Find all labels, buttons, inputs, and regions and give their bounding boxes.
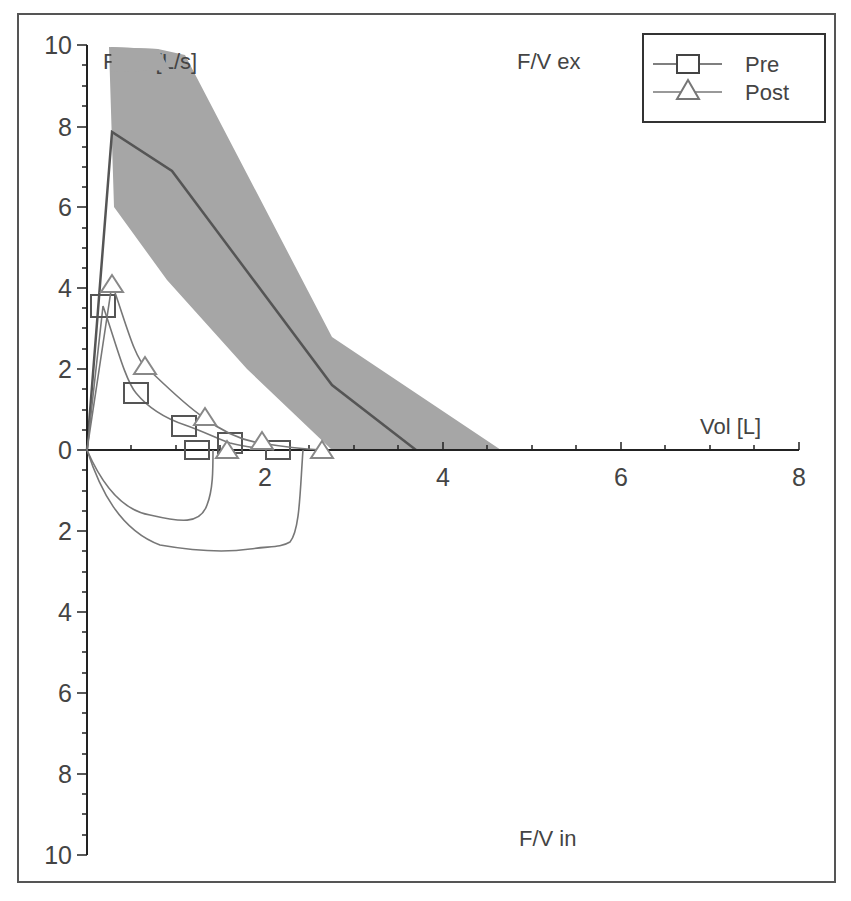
svg-text:10: 10 <box>44 841 72 869</box>
svg-text:4: 4 <box>58 274 72 302</box>
svg-text:0: 0 <box>58 436 72 464</box>
svg-text:8: 8 <box>58 760 72 788</box>
legend: Pre Post <box>643 34 825 122</box>
flow-volume-chart: 10 8 6 4 2 0 2 4 6 8 10 2 4 6 8 <box>0 0 851 901</box>
svg-text:8: 8 <box>58 113 72 141</box>
svg-text:Post: Post <box>745 80 789 105</box>
svg-text:2: 2 <box>58 517 72 545</box>
svg-text:4: 4 <box>436 463 450 491</box>
svg-text:6: 6 <box>58 679 72 707</box>
x-axis-label: Vol [L] <box>700 414 761 439</box>
svg-text:2: 2 <box>58 355 72 383</box>
svg-text:6: 6 <box>58 193 72 221</box>
inspiratory-annotation: F/V in <box>519 826 576 851</box>
expiratory-annotation: F/V ex <box>517 49 581 74</box>
square-marker-icon <box>677 55 699 73</box>
svg-text:10: 10 <box>44 31 72 59</box>
legend-box <box>643 34 825 122</box>
svg-text:4: 4 <box>58 598 72 626</box>
svg-text:6: 6 <box>614 463 628 491</box>
svg-text:8: 8 <box>792 463 806 491</box>
svg-text:Pre: Pre <box>745 52 779 77</box>
svg-text:2: 2 <box>258 463 272 491</box>
